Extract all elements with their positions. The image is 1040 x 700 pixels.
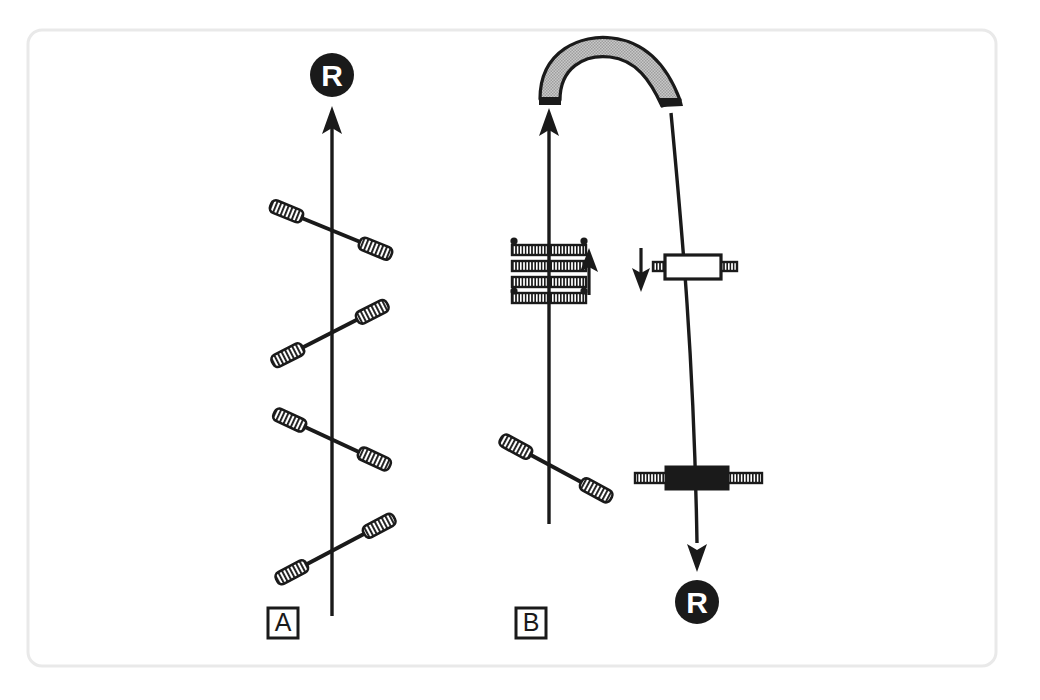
figure-canvas: R — [0, 0, 1040, 700]
arc-cap-right — [659, 98, 683, 107]
spring-corner-dot — [580, 287, 587, 294]
solid-block-box — [666, 467, 728, 489]
panel-label-a: A — [268, 608, 298, 638]
figure-root: R — [0, 0, 1040, 700]
panel-label-a-text: A — [275, 608, 292, 636]
reaction-marker-bottom-b: R — [675, 580, 719, 624]
spring-stack — [510, 237, 587, 303]
open-block-box — [665, 255, 721, 279]
reaction-marker-letter: R — [321, 59, 343, 92]
spring-corner-dot — [580, 237, 587, 244]
arc-cap-left — [539, 97, 561, 105]
spring-corner-dot — [510, 287, 517, 294]
reaction-marker-top-a: R — [310, 53, 354, 97]
panel-label-b-text: B — [523, 608, 540, 636]
figure-border — [28, 30, 996, 666]
spring-corner-dot — [510, 237, 517, 244]
reaction-marker-letter: R — [686, 586, 708, 619]
panel-label-b: B — [516, 608, 546, 638]
